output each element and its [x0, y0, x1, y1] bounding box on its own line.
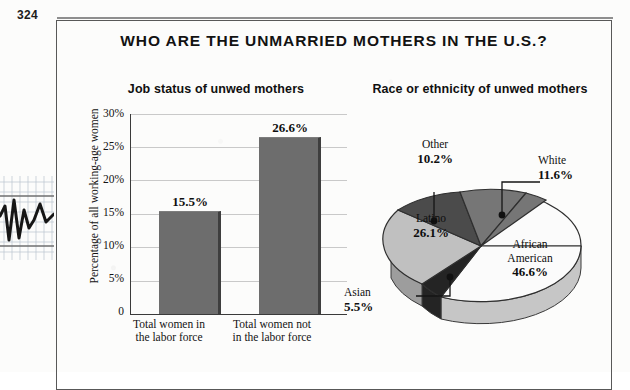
y-tick-10: 10%	[90, 239, 124, 251]
pie-label-other-value: 10.2%	[417, 151, 453, 166]
leader-dot-white	[499, 212, 506, 219]
y-tick-30: 30%	[90, 107, 124, 119]
bar-plot-area: 15.5% 26.6%	[130, 114, 347, 315]
y-tick-0: 0	[90, 305, 124, 317]
x-category-1: Total women in the labor force	[132, 318, 206, 344]
bar-chart: Percentage of all working-age women 30% …	[60, 104, 350, 354]
pie-label-asian: Asian 5.5%	[344, 286, 414, 314]
x-category-2-line-2: in the labor force	[230, 331, 314, 344]
pie-label-latino-name: Latino	[416, 212, 446, 224]
bar-chart-title: Job status of unwed mothers	[86, 82, 346, 96]
pie-label-other: Other 10.2%	[402, 138, 468, 166]
figure-title: WHO ARE THE UNMARRIED MOTHERS IN THE U.S…	[56, 32, 612, 50]
y-tick-15: 15%	[90, 206, 124, 218]
pie-label-other-name: Other	[422, 138, 448, 150]
waveform-icon	[0, 176, 54, 260]
header-rule	[57, 17, 613, 19]
pie-label-asian-value: 5.5%	[344, 299, 373, 314]
bar-value-label-2: 26.6%	[253, 120, 327, 136]
pie-label-white-value: 11.6%	[538, 167, 573, 182]
y-tick-5: 5%	[90, 272, 124, 284]
x-category-1-line-1: Total women in	[132, 318, 206, 331]
pie-label-latino-value: 26.1%	[413, 225, 449, 240]
page-number: 324	[17, 8, 38, 22]
bar-total-women-not-in-labor-force	[259, 137, 321, 314]
pie-label-white: White 11.6%	[538, 154, 610, 182]
leader-dot-asian	[447, 274, 454, 281]
pie-label-african-american: African American 46.6%	[490, 238, 570, 280]
gridline-30	[131, 114, 347, 115]
pie-label-white-name: White	[538, 154, 566, 166]
y-tick-25: 25%	[90, 140, 124, 152]
x-category-2-line-1: Total women not	[230, 318, 314, 331]
pie-chart-title: Race or ethnicity of unwed mothers	[350, 82, 610, 96]
margin-waveform-decoration	[0, 176, 54, 260]
pie-label-african-american-line-1: African	[512, 238, 547, 250]
pie-label-latino: Latino 26.1%	[394, 212, 468, 240]
pie-chart: Other 10.2% White 11.6% Asian 5.5% Latin…	[350, 104, 612, 364]
x-category-2: Total women not in the labor force	[230, 318, 314, 344]
pie-label-african-american-line-2: American	[507, 252, 552, 264]
pie-label-african-american-value: 46.6%	[512, 264, 548, 279]
bar-y-axis-ticks: 30% 25% 20% 15% 10% 5% 0	[90, 104, 124, 314]
bar-total-women-in-labor-force	[159, 211, 221, 314]
x-category-1-line-2: the labor force	[132, 331, 206, 344]
pie-graphic	[350, 104, 612, 364]
y-tick-20: 20%	[90, 173, 124, 185]
bar-value-label-1: 15.5%	[153, 194, 227, 210]
pie-label-asian-name: Asian	[344, 286, 371, 298]
